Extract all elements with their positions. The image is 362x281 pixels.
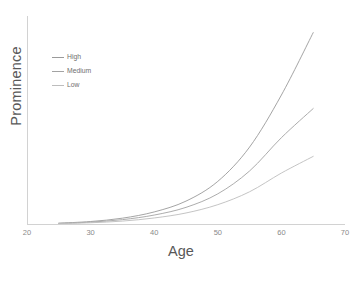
x-tick-20: 20	[23, 228, 31, 237]
legend-swatch-medium-icon	[52, 71, 64, 72]
series-line-medium	[59, 109, 313, 224]
series-line-high	[59, 33, 313, 224]
y-axis-title: Prominence	[8, 26, 24, 146]
caption-strip	[0, 262, 362, 281]
x-tick-40: 40	[150, 228, 158, 237]
legend-label: High	[67, 54, 81, 61]
series-line-low	[59, 156, 313, 223]
legend-item-low[interactable]: Low	[52, 80, 91, 91]
legend-swatch-low-icon	[52, 85, 64, 86]
x-tick-30: 30	[86, 228, 94, 237]
figure-canvas: 203040506070 Prominence Age HighMediumLo…	[0, 0, 362, 281]
chart-legend: HighMediumLow	[52, 52, 91, 94]
legend-item-medium[interactable]: Medium	[52, 66, 91, 77]
legend-label: Medium	[67, 68, 91, 75]
legend-label: Low	[67, 82, 79, 89]
x-tick-50: 50	[214, 228, 222, 237]
chart-curves	[0, 0, 362, 281]
x-axis-title: Age	[0, 243, 362, 259]
legend-swatch-high-icon	[52, 57, 64, 58]
x-tick-60: 60	[277, 228, 285, 237]
x-tick-70: 70	[341, 228, 349, 237]
legend-item-high[interactable]: High	[52, 52, 91, 63]
